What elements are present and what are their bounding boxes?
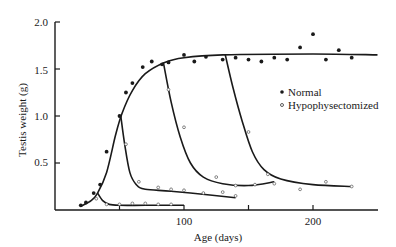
fitted-curve (81, 54, 378, 206)
normal-data-point (337, 48, 341, 52)
hypophysectomized-data-point (202, 192, 205, 195)
hypophysectomized-data-point (157, 186, 160, 189)
x-tick-label-200: 200 (305, 215, 322, 227)
normal-data-point (298, 45, 302, 49)
hypophysectomized-data-point (183, 126, 186, 129)
hypophysectomized-data-point (157, 203, 160, 206)
normal-data-point (79, 203, 83, 207)
hypophysectomized-data-point (299, 188, 302, 191)
normal-data-point (131, 81, 135, 85)
hypophysectomized-data-point (167, 88, 170, 91)
normal-data-point (92, 191, 96, 195)
normal-data-point (221, 58, 225, 62)
hypophysectomized-data-point (215, 176, 218, 179)
normal-data-point (84, 201, 88, 205)
hypophysectomized-data-point (325, 180, 328, 183)
y-tick-label-2.0: 2.0 (34, 16, 48, 28)
normal-data-point (124, 91, 128, 95)
hypophysectomized-data-point (254, 183, 257, 186)
normal-data-point (98, 183, 102, 187)
normal-data-point (285, 58, 289, 62)
hypophysectomized-data-point (273, 182, 276, 185)
fitted-curve (225, 55, 351, 187)
x-tick-label-100: 100 (176, 215, 193, 227)
legend-label-normal: Normal (288, 86, 322, 98)
y-tick-label-1.0: 1.0 (34, 110, 48, 122)
legend-marker-normal (280, 90, 284, 94)
normal-data-point (150, 60, 154, 64)
normal-data-point (105, 150, 109, 154)
hypophysectomized-data-point (95, 197, 98, 200)
normal-data-point (160, 62, 164, 66)
hypophysectomized-data-point (125, 143, 128, 146)
normal-data-point (192, 60, 196, 64)
normal-data-point (272, 56, 276, 60)
y-tick-label-1.5: 1.5 (34, 64, 48, 76)
normal-data-point (324, 58, 328, 62)
normal-data-point (141, 65, 145, 69)
hypophysectomized-data-point (266, 173, 269, 176)
normal-data-point (311, 32, 315, 36)
legend-marker-hypophysectomized (281, 104, 284, 107)
y-ticks (55, 22, 60, 163)
chart-canvas: 100 200 0.5 1.0 1.5 2.0 Age (days) Testi… (0, 0, 396, 247)
hypophysectomized-data-point (105, 203, 108, 206)
normal-data-point (234, 56, 238, 60)
normal-data-point (247, 58, 251, 62)
fitted-curves (81, 54, 378, 206)
hypophysectomized-data-point (183, 189, 186, 192)
hypophysectomized-data-point (234, 195, 237, 198)
hypophysectomized-data-point (131, 202, 134, 205)
hypophysectomized-data-point (234, 184, 237, 187)
fitted-curve (163, 62, 274, 185)
hypophysectomized-data-point (350, 185, 353, 188)
hypophysectomized-data-point (137, 180, 140, 183)
normal-data-point (350, 56, 354, 60)
normal-data-point (118, 114, 122, 118)
normal-data-point (260, 60, 264, 64)
hypophysectomized-data-point (247, 131, 250, 134)
normal-data-point (182, 53, 186, 57)
y-axis-title: Testis weight (g) (16, 83, 29, 157)
hypophysectomized-data-point (170, 203, 173, 206)
legend-label-hypophysectomized: Hypophysectomized (288, 99, 379, 111)
testis-weight-chart: 100 200 0.5 1.0 1.5 2.0 Age (days) Testi… (0, 0, 396, 247)
hypophysectomized-data-point (170, 188, 173, 191)
x-axis-title: Age (days) (194, 231, 243, 244)
y-tick-label-0.5: 0.5 (34, 156, 48, 168)
normal-data-point (204, 55, 208, 59)
hypophysectomized-data-point (221, 191, 224, 194)
legend: Normal Hypophysectomized (280, 86, 379, 111)
hypophysectomized-data-point (144, 202, 147, 205)
normal-data-point (167, 61, 171, 65)
hypophysectomized-data-point (118, 203, 121, 206)
